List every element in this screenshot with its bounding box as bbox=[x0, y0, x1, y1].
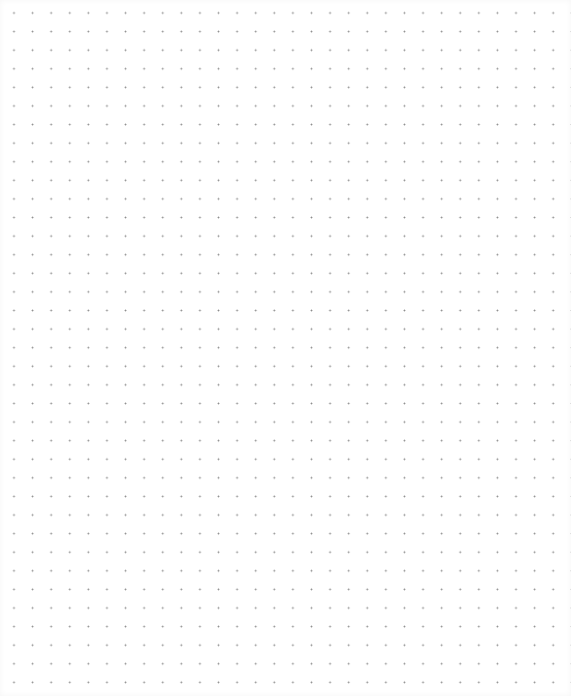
dot-grid-canvas bbox=[0, 0, 571, 696]
